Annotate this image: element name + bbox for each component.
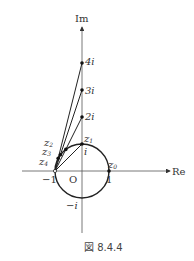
tick-label-one: 1: [106, 174, 112, 185]
complex-plane-diagram: Im Re O −1 1 i −i 2i 3i 4i z0 z1 z2 z3 z…: [0, 0, 194, 261]
origin-label: O: [69, 174, 77, 185]
point-z2: [64, 148, 68, 152]
tick-label-2i: 2i: [84, 111, 95, 122]
tick-label-i: i: [84, 146, 87, 157]
point-label-z1: z1: [83, 133, 93, 144]
point-z3: [59, 153, 63, 157]
point-label-z4: z4: [38, 156, 48, 167]
point-2i: [80, 115, 84, 119]
point-4i: [80, 61, 84, 65]
tick-label-3i: 3i: [85, 85, 95, 96]
point-minus-one: [53, 169, 56, 172]
imag-axis-label: Im: [75, 13, 89, 24]
tick-label-neg-one: −1: [42, 174, 57, 185]
tick-label-neg-i: −i: [66, 200, 78, 211]
real-axis-label: Re: [172, 166, 186, 177]
point-label-z0: z0: [107, 159, 117, 170]
figure-caption: 図 8.4.4: [84, 242, 123, 253]
tick-label-4i: 4i: [84, 56, 95, 67]
point-3i: [80, 88, 84, 92]
point-z4: [56, 156, 60, 160]
